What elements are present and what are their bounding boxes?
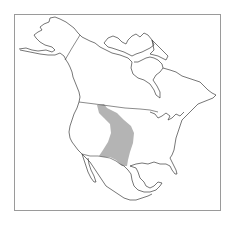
great-lakes: [150, 112, 184, 120]
labrador-coast: [163, 68, 216, 120]
alaska-peninsula: [20, 50, 80, 102]
alaska-canada-border: [65, 35, 80, 60]
us-east-coast: [130, 120, 182, 174]
mexico-coastline: [124, 166, 162, 192]
north-america-map: [0, 0, 234, 225]
alaska-coastline: [19, 17, 95, 52]
baffin-island: [150, 40, 168, 60]
us-canada-border: [79, 102, 158, 112]
us-west-coast: [69, 102, 82, 154]
